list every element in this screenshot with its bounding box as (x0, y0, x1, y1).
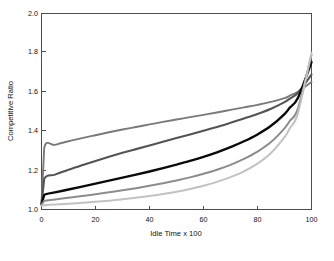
y-tick-label-3: 1.4 (28, 126, 38, 135)
y-tick-label-5: 1.8 (28, 47, 38, 56)
y-tick-label-1: 1.0 (28, 205, 38, 214)
x-tick-label-2: 20 (92, 215, 100, 224)
x-tick-label-6: 100 (306, 215, 318, 224)
y-axis-title: Competitive Ratio (6, 81, 15, 141)
x-axis-title: Idle Time x 100 (150, 229, 202, 238)
x-tick-label-1: 0 (40, 215, 44, 224)
x-tick-label-3: 40 (146, 215, 154, 224)
y-tick-label-4: 1.6 (28, 87, 38, 96)
x-tick-marks (42, 206, 312, 210)
series-line-series-3 (42, 62, 312, 204)
y-tick-label-2: 1.2 (28, 166, 38, 175)
line-chart-plot: 1.0 1.2 1.4 1.6 1.8 2.0 0 20 40 60 80 10… (0, 0, 334, 261)
x-tick-label-5: 80 (254, 215, 262, 224)
series-line-series-5 (42, 53, 312, 206)
y-tick-label-6: 2.0 (28, 9, 38, 18)
x-tick-label-4: 60 (200, 215, 208, 224)
series-group (42, 53, 312, 206)
series-line-series-4 (42, 55, 312, 205)
series-line-series-2 (42, 75, 312, 204)
chart-figure: 1.0 1.2 1.4 1.6 1.8 2.0 0 20 40 60 80 10… (0, 0, 334, 261)
